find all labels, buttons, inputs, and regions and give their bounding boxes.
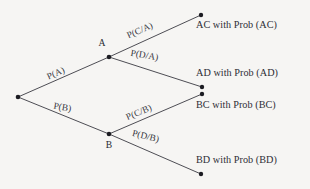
- node-a-dot: [107, 55, 112, 60]
- outcome-label-ac: AC with Prob (AC): [196, 19, 277, 31]
- probability-tree-diagram: A B P(A) P(B) P(C/A) P(D/A) P(C/B) P(D/B…: [0, 0, 310, 189]
- outcome-label-bc: BC with Prob (BC): [196, 99, 276, 111]
- branch-line-b-to-bc: [109, 94, 202, 134]
- edge-label-p-d-a: P(D/A): [130, 48, 159, 63]
- outcome-ac-dot: [199, 13, 203, 17]
- node-dots-group: [16, 13, 205, 176]
- tree-svg-canvas: A B P(A) P(B) P(C/A) P(D/A) P(C/B) P(D/B…: [0, 0, 310, 189]
- node-label-a: A: [99, 37, 106, 48]
- outcome-bc-dot: [200, 92, 204, 96]
- outcome-label-bd: BD with Prob (BD): [196, 154, 277, 166]
- root-node-dot: [16, 95, 21, 100]
- outcome-bd-dot: [199, 172, 203, 176]
- edge-label-p-c-b: P(C/B): [124, 102, 153, 123]
- branch-lines-group: [18, 15, 202, 174]
- outcome-label-ad: AD with Prob (AD): [196, 67, 278, 79]
- outcome-labels-group: AC with Prob (AC) AD with Prob (AD) BC w…: [196, 19, 278, 166]
- outcome-ad-dot: [200, 85, 204, 89]
- node-label-b: B: [106, 139, 112, 150]
- branch-line-root-to-a: [18, 57, 109, 97]
- edge-label-p-d-b: P(D/B): [131, 128, 160, 145]
- branch-line-a-to-ac: [109, 15, 201, 57]
- node-b-dot: [107, 132, 112, 137]
